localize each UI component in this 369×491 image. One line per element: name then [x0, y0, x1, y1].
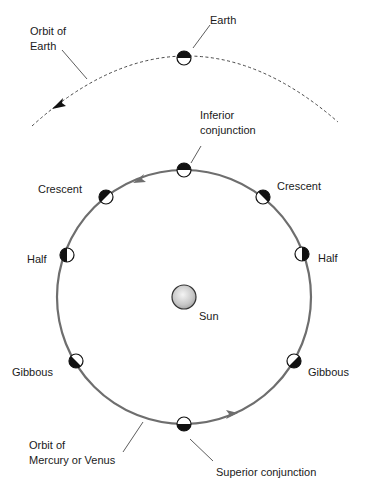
orbit-earth-label-2: Earth	[30, 40, 56, 52]
inferior-label-1: Inferior	[200, 109, 235, 121]
earth-icon	[177, 51, 191, 65]
planet-phases-diagram: Orbit of Earth Earth Inferior conjunctio…	[0, 0, 369, 491]
superior-label: Superior conjunction	[216, 466, 316, 478]
half-left-label: Half	[27, 253, 48, 265]
half-right-label: Half	[318, 252, 339, 264]
planet-superior-conjunction-icon	[177, 417, 191, 431]
crescent-right-label: Crescent	[277, 180, 321, 192]
earth-label: Earth	[210, 14, 236, 26]
sun-icon	[172, 285, 196, 309]
planet-half-right-icon	[295, 247, 309, 261]
orbit-inner-label-1: Orbit of	[29, 439, 66, 451]
planet-gibbous-left-icon	[66, 351, 86, 371]
earth-leader	[193, 25, 210, 48]
crescent-left-label: Crescent	[38, 183, 82, 195]
orbit-inner-leader	[123, 422, 143, 452]
orbit-earth-leader	[62, 50, 87, 79]
planet-gibbous-right-icon	[284, 351, 304, 371]
sun-label: Sun	[199, 310, 219, 322]
superior-leader	[190, 439, 213, 461]
gibbous-right-label: Gibbous	[308, 366, 349, 378]
planet-half-left-icon	[60, 248, 74, 262]
gibbous-left-label: Gibbous	[12, 366, 53, 378]
inner-orbit-arrow-bottom-icon	[226, 410, 238, 419]
inferior-leader	[191, 146, 201, 163]
inferior-label-2: conjunction	[200, 124, 256, 136]
earth-orbit	[32, 56, 338, 126]
orbit-inner-label-2: Mercury or Venus	[29, 454, 116, 466]
planet-inferior-conjunction-icon	[177, 163, 191, 177]
orbit-earth-label-1: Orbit of	[30, 25, 67, 37]
